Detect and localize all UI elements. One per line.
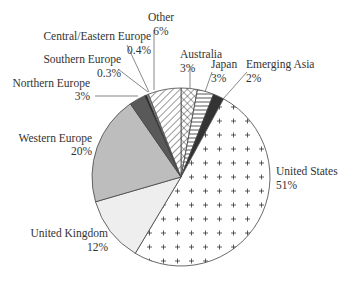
- label-united-states-name: United States: [276, 165, 338, 177]
- label-central-eastern-europe-pct: 0.4%: [127, 44, 151, 56]
- label-united-kingdom-pct: 12%: [87, 241, 109, 253]
- label-japan-name: Japan: [211, 58, 237, 71]
- label-northern-europe-pct: 3%: [75, 90, 91, 102]
- label-australia-pct: 3%: [180, 62, 196, 74]
- label-emerging-asia-name: Emerging Asia: [246, 58, 314, 71]
- pie-chart: Other 6% Central/Eastern Europe 0.4% Sou…: [0, 0, 351, 282]
- label-japan-pct: 3%: [211, 72, 227, 84]
- label-southern-europe-name: Southern Europe: [43, 53, 121, 66]
- label-western-europe-name: Western Europe: [19, 132, 92, 145]
- label-united-kingdom-name: United Kingdom: [30, 227, 108, 240]
- label-united-states-pct: 51%: [276, 179, 298, 191]
- label-western-europe-pct: 20%: [71, 145, 93, 157]
- label-central-eastern-europe-name: Central/Eastern Europe: [43, 30, 151, 43]
- label-other-name: Other: [148, 11, 174, 23]
- label-northern-europe-name: Northern Europe: [12, 77, 90, 90]
- pie-slices: [92, 88, 270, 266]
- label-southern-europe-pct: 0.3%: [97, 67, 121, 79]
- label-other-pct: 6%: [153, 25, 169, 37]
- label-emerging-asia-pct: 2%: [246, 72, 262, 84]
